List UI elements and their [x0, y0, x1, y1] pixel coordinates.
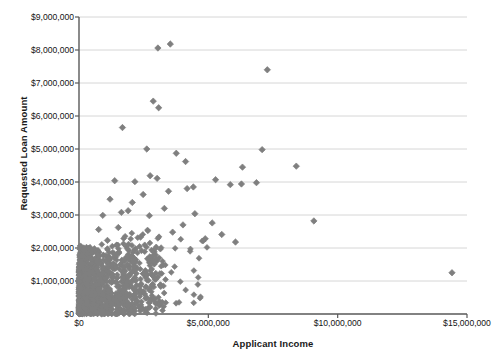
- data-point: [232, 239, 238, 245]
- data-point: [147, 173, 153, 179]
- data-point: [132, 178, 138, 184]
- data-point: [107, 196, 113, 202]
- data-point-markers: [76, 41, 455, 317]
- data-point: [196, 255, 202, 261]
- data-point: [177, 279, 183, 285]
- data-point: [99, 242, 105, 248]
- data-point: [129, 230, 135, 236]
- data-point: [119, 124, 125, 130]
- data-point: [183, 287, 189, 293]
- plot-area: [0, 0, 496, 359]
- data-point: [140, 191, 146, 197]
- data-point: [168, 269, 174, 275]
- data-point: [146, 212, 152, 218]
- data-point: [115, 224, 121, 230]
- data-point: [293, 163, 299, 169]
- data-point: [125, 208, 131, 214]
- data-point: [182, 158, 188, 164]
- data-point: [311, 218, 317, 224]
- data-point: [104, 237, 110, 243]
- data-point: [184, 185, 190, 191]
- data-point: [129, 199, 135, 205]
- data-point: [150, 98, 156, 104]
- data-point: [264, 67, 270, 73]
- data-point: [204, 244, 210, 250]
- data-point: [161, 205, 167, 211]
- data-point: [180, 222, 186, 228]
- data-point: [154, 175, 160, 181]
- data-point: [165, 188, 171, 194]
- data-point: [191, 292, 197, 298]
- data-point: [259, 146, 265, 152]
- data-point: [209, 220, 215, 226]
- data-point: [155, 105, 161, 111]
- data-point: [163, 277, 169, 283]
- scatter-chart: Requested Loan Amount Applicant Income $…: [0, 0, 496, 359]
- data-point: [191, 300, 197, 306]
- data-point: [195, 282, 201, 288]
- data-point: [161, 290, 167, 296]
- data-point: [172, 264, 178, 270]
- data-point: [153, 311, 159, 317]
- data-point: [173, 150, 179, 156]
- data-point: [167, 41, 173, 47]
- data-point: [219, 231, 225, 237]
- data-point: [253, 179, 259, 185]
- data-point: [239, 164, 245, 170]
- data-point: [190, 184, 196, 190]
- data-point: [144, 146, 150, 152]
- data-point: [172, 245, 178, 251]
- data-point: [95, 226, 101, 232]
- data-point: [191, 268, 197, 274]
- data-point: [169, 229, 175, 235]
- data-point: [195, 275, 201, 281]
- data-point: [100, 212, 106, 218]
- data-point: [178, 236, 184, 242]
- data-point: [449, 270, 455, 276]
- data-point: [192, 210, 198, 216]
- data-point: [111, 177, 117, 183]
- gridlines: [79, 17, 467, 281]
